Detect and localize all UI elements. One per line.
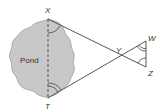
point-label-x: X xyxy=(44,6,51,15)
point-label-t: T xyxy=(45,102,51,111)
angle-mark-z xyxy=(138,58,146,63)
point-label-y: Y xyxy=(116,46,122,55)
pond-triangle-diagram: Pond X T Y W Z xyxy=(0,0,164,111)
point-label-w: W xyxy=(148,34,157,43)
angle-mark-w-inner xyxy=(139,45,146,49)
point-label-z: Z xyxy=(147,69,154,78)
pond-label: Pond xyxy=(20,56,39,65)
